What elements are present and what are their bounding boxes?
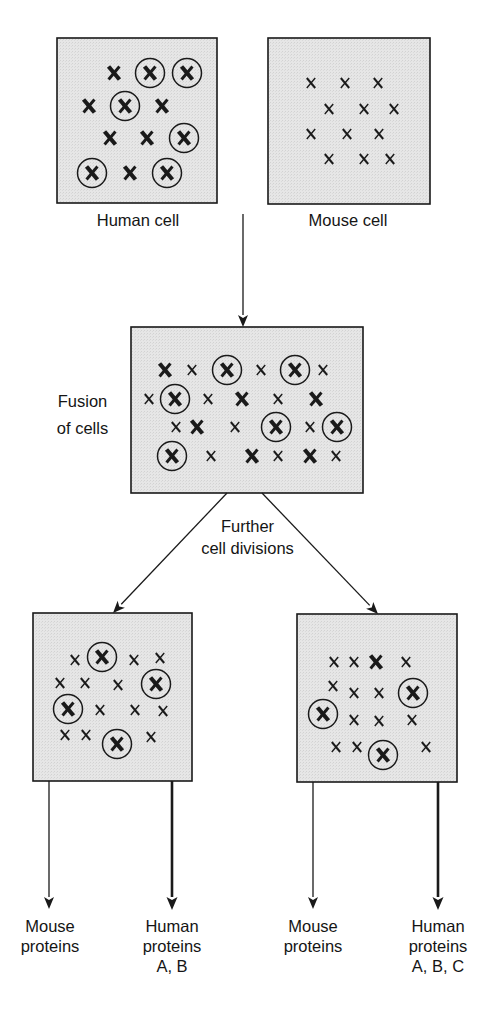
fusion-cell — [131, 327, 363, 493]
output-label-left-human-proteins: Human proteins A, B — [130, 916, 214, 976]
daughter-cell-right — [297, 614, 457, 782]
human-cell — [57, 38, 217, 203]
mouse-cell — [268, 38, 430, 204]
arrow-right-human-proteins-icon — [433, 782, 444, 910]
arrow-right-mouse-proteins-icon — [308, 782, 318, 909]
arrow-left-mouse-proteins-icon — [44, 781, 54, 909]
mouse-cell-label: Mouse cell — [288, 210, 408, 230]
human-cell-membrane — [57, 38, 217, 203]
daughter-cell-left-membrane — [33, 613, 192, 781]
fusion-of-cells-label: Fusion of cells — [35, 388, 130, 442]
further-cell-divisions-label: Further cell divisions — [180, 515, 315, 559]
cell-fusion-diagram — [0, 0, 498, 1018]
output-label-right-mouse-proteins: Mouse proteins — [271, 916, 355, 956]
human-cell-label: Human cell — [78, 210, 198, 230]
arrow-left-human-proteins-icon — [167, 781, 178, 910]
daughter-cell-right-membrane — [297, 614, 457, 782]
output-label-right-human-proteins: Human proteins A, B, C — [396, 916, 480, 976]
daughter-cell-left — [33, 613, 192, 781]
arrow-to-fusion-icon — [238, 214, 248, 327]
output-label-left-mouse-proteins: Mouse proteins — [8, 916, 92, 956]
mouse-cell-membrane — [268, 38, 430, 204]
